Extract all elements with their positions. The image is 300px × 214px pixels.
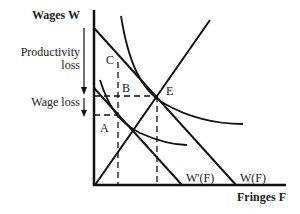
productivity-loss-label-2: loss [61, 58, 80, 72]
wage-fringe-diagram: Wages W Productivity loss Wage loss C B … [0, 0, 300, 214]
w-of-f-line [94, 28, 236, 185]
x-axis-label: Fringes F [237, 190, 286, 204]
upper-indifference-curve [121, 16, 243, 124]
y-axis-label: Wages W [32, 8, 80, 22]
offer-curve-line [95, 20, 210, 185]
point-a-label: A [100, 121, 109, 135]
point-c-label: C [106, 53, 114, 67]
point-b-label: B [122, 81, 130, 95]
w-of-f-label: W(F) [240, 171, 266, 185]
wage-loss-arrowhead [81, 110, 87, 117]
point-e-label: E [166, 84, 173, 98]
productivity-loss-label-1: Productivity [21, 45, 80, 59]
lower-indifference-curve [100, 80, 187, 145]
productivity-loss-arrowhead [81, 87, 87, 95]
wage-loss-label: Wage loss [31, 95, 80, 109]
w-prime-of-f-label: W'(F) [186, 171, 214, 185]
w-prime-of-f-line [94, 88, 182, 185]
